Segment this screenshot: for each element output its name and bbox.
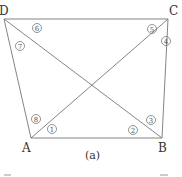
svg-text:4: 4 — [164, 38, 169, 46]
diagonal-ac — [31, 19, 168, 138]
angle-label-4: 4 — [162, 37, 171, 46]
svg-text:1: 1 — [50, 126, 54, 134]
vertex-label-a: A — [21, 141, 31, 155]
svg-text:5: 5 — [150, 26, 154, 34]
angle-label-8: 8 — [32, 115, 41, 124]
angle-label-5: 5 — [148, 25, 157, 34]
svg-text:2: 2 — [131, 127, 135, 135]
angle-label-7: 7 — [16, 42, 25, 51]
svg-text:3: 3 — [149, 117, 153, 125]
svg-text:8: 8 — [34, 116, 38, 124]
diagonal-bd — [4, 19, 162, 138]
vertex-label-d: D — [0, 4, 9, 18]
svg-text:7: 7 — [18, 43, 22, 51]
vertex-label-c: C — [169, 4, 178, 18]
angle-label-2: 2 — [129, 126, 138, 135]
angle-label-3: 3 — [147, 116, 156, 125]
vertex-label-b: B — [158, 141, 167, 155]
edge-da — [4, 19, 31, 138]
angle-label-1: 1 — [48, 125, 57, 134]
figure-caption: (a) — [85, 149, 100, 162]
svg-text:6: 6 — [35, 25, 40, 33]
angle-label-6: 6 — [33, 24, 42, 33]
quadrilateral-diagram: D C A B 1 2 3 4 5 6 7 8 (a) — [0, 0, 182, 177]
